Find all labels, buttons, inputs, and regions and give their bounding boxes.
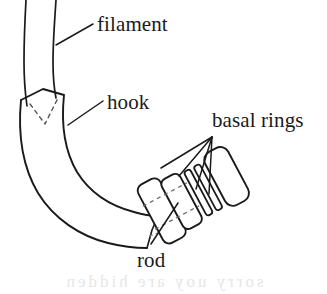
figure-root: filament hook basal rings rod sorry uoy … (0, 0, 327, 294)
label-basal-rings: basal rings (212, 110, 304, 131)
basal-ring-terminal (201, 144, 252, 209)
label-filament: filament (97, 14, 168, 35)
hook-leader-line (68, 101, 103, 125)
hook-junction-dashes (30, 98, 58, 124)
label-rod: rod (137, 250, 165, 271)
filament-leader-line (56, 24, 93, 45)
label-hook: hook (107, 92, 149, 113)
